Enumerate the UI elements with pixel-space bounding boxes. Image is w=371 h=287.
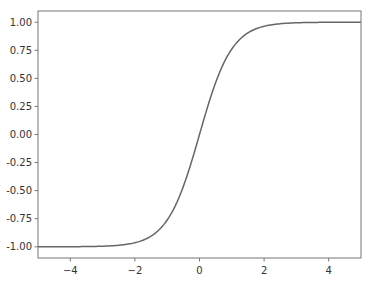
y-tick-label: -0.25 — [6, 157, 32, 168]
y-axis-ticks: 1.000.750.500.250.00-0.25-0.50-0.75-1.00 — [6, 17, 38, 253]
x-tick-label: −4 — [63, 265, 78, 276]
x-tick-label: 0 — [196, 265, 202, 276]
y-tick-label: -1.00 — [6, 241, 32, 252]
y-tick-label: 0.75 — [10, 45, 32, 56]
plot-area — [38, 11, 361, 258]
y-tick-label: 0.25 — [10, 101, 32, 112]
x-tick-label: 4 — [326, 265, 332, 276]
y-tick-label: 1.00 — [10, 17, 32, 28]
y-tick-label: 0.00 — [10, 129, 32, 140]
y-tick-label: -0.50 — [6, 185, 32, 196]
x-tick-label: −2 — [128, 265, 143, 276]
y-tick-label: 0.50 — [10, 73, 32, 84]
tanh-chart: −4−2024 1.000.750.500.250.00-0.25-0.50-0… — [0, 0, 371, 287]
tanh-curve — [38, 22, 361, 247]
x-axis-ticks: −4−2024 — [63, 258, 332, 276]
y-tick-label: -0.75 — [6, 213, 32, 224]
x-tick-label: 2 — [261, 265, 267, 276]
